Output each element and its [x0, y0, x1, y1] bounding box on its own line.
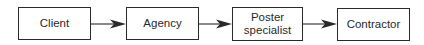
arrow-client-to-agency — [91, 20, 126, 29]
node-poster-specialist-label-line2: specialist — [244, 24, 291, 37]
arrow-agency-to-poster-specialist — [199, 20, 232, 29]
node-poster-specialist: Poster specialist — [232, 7, 303, 41]
node-contractor-label: Contractor — [347, 18, 401, 31]
node-client-label: Client — [40, 17, 69, 30]
node-agency-label: Agency — [143, 17, 181, 30]
arrow-poster-specialist-to-contractor — [303, 20, 337, 29]
node-agency: Agency — [126, 7, 199, 40]
node-client: Client — [18, 7, 91, 40]
node-poster-specialist-label-line1: Poster — [251, 11, 284, 24]
node-contractor: Contractor — [337, 8, 410, 41]
